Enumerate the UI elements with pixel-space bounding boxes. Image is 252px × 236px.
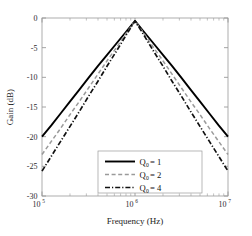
- x-axis-title: Frequency (Hz): [107, 216, 164, 226]
- legend-entry-3: Q0 = 4: [140, 183, 162, 194]
- legend-subscript-1: 0: [146, 162, 149, 168]
- frequency-response-chart: 0-5-10-15-20-25-30 105106107 Frequency (…: [0, 0, 252, 236]
- y-tick-label-0: 0: [34, 14, 38, 23]
- x-tick-exponent-0: 5: [42, 198, 45, 204]
- legend-subscript-3: 0: [146, 188, 149, 194]
- legend-entry-1: Q0 = 1: [140, 157, 162, 168]
- y-tick-label-4: -20: [27, 133, 38, 142]
- x-tick-mantissa-1: 10: [126, 200, 134, 209]
- y-tick-label-3: -15: [27, 103, 38, 112]
- x-tick-mantissa-0: 10: [33, 200, 41, 209]
- legend-subscript-2: 0: [146, 175, 149, 181]
- y-tick-label-2: -10: [27, 73, 38, 82]
- legend-value-1: = 1: [150, 157, 161, 167]
- legend-value-2: = 2: [150, 170, 161, 180]
- legend-entry-2: Q0 = 2: [140, 170, 162, 181]
- x-tick-exponent-2: 7: [228, 198, 231, 204]
- x-tick-mantissa-2: 10: [219, 200, 227, 209]
- legend-value-3: = 4: [150, 183, 162, 193]
- y-tick-label-1: -5: [31, 44, 38, 53]
- chart-legend: Q0 = 1Q0 = 2Q0 = 4: [98, 151, 202, 194]
- y-axis-title: Gain (dB): [5, 89, 15, 125]
- x-tick-exponent-1: 6: [135, 198, 138, 204]
- y-tick-label-5: -25: [27, 162, 38, 171]
- figure-container: 0-5-10-15-20-25-30 105106107 Frequency (…: [0, 0, 252, 236]
